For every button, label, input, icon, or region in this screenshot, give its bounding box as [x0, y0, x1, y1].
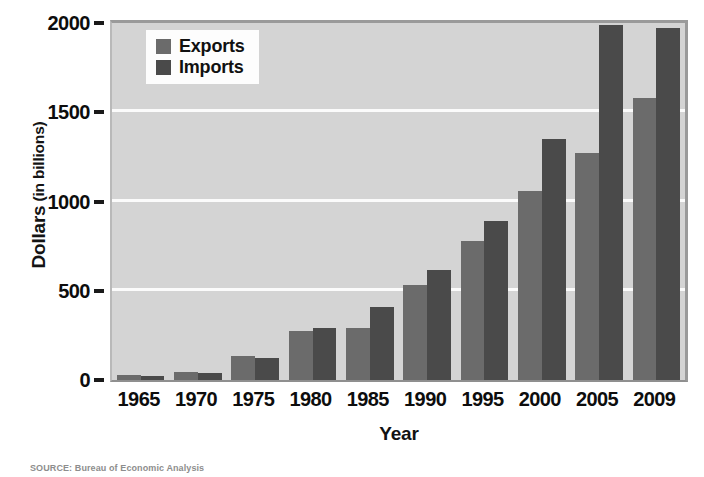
bar-group: [633, 23, 681, 380]
bar-imports-1965: [141, 376, 165, 380]
bar-chart-figure: Dollars(in billions) 0500100015002000 Ex…: [0, 0, 704, 477]
source-note: SOURCE: Bureau of Economic Analysis: [30, 463, 204, 477]
x-tick-label-1995: 1995: [454, 386, 511, 412]
bar-imports-1990: [427, 270, 451, 380]
x-tick-label-1975: 1975: [225, 386, 282, 412]
bar-exports-2009: [633, 98, 657, 380]
x-tick-label-1990: 1990: [397, 386, 454, 412]
y-tick-mark: [94, 21, 104, 25]
bar-group: [461, 23, 509, 380]
bar-imports-1970: [198, 373, 222, 380]
legend-item-exports: Exports: [156, 37, 245, 55]
x-axis-title: Year: [110, 423, 688, 445]
y-tick-mark: [94, 378, 104, 382]
y-tick: 500: [0, 279, 104, 303]
x-tick-label-1985: 1985: [339, 386, 396, 412]
bar-group: [518, 23, 566, 380]
legend-label-exports: Exports: [179, 37, 245, 55]
bar-group: [289, 23, 337, 380]
chart-legend: Exports Imports: [146, 30, 259, 84]
y-tick-label: 1500: [48, 100, 91, 124]
bar-exports-1975: [231, 356, 255, 380]
y-tick-label: 500: [58, 279, 90, 303]
x-axis-ticks: 1965197019751980198519901995200020052009: [110, 386, 688, 416]
plot-area: Exports Imports: [110, 20, 688, 382]
bar-exports-1970: [174, 372, 198, 380]
legend-swatch-imports-icon: [156, 60, 171, 75]
x-tick-label-2009: 2009: [626, 386, 683, 412]
y-tick: 0: [0, 368, 104, 392]
bar-group: [575, 23, 623, 380]
x-tick-label-2000: 2000: [511, 386, 568, 412]
bar-exports-1995: [461, 241, 485, 380]
bar-exports-1965: [117, 375, 141, 380]
y-tick: 1000: [0, 190, 104, 214]
bar-group: [403, 23, 451, 380]
bar-exports-2005: [575, 153, 599, 380]
x-tick-label-1965: 1965: [110, 386, 167, 412]
y-tick-mark: [94, 289, 104, 293]
legend-swatch-exports-icon: [156, 39, 171, 54]
y-tick-label: 1000: [48, 190, 91, 214]
legend-item-imports: Imports: [156, 58, 245, 76]
legend-label-imports: Imports: [179, 58, 244, 76]
bar-imports-1975: [255, 358, 279, 380]
bar-imports-2005: [599, 25, 623, 380]
bar-group: [346, 23, 394, 380]
bar-imports-2009: [656, 28, 680, 380]
x-tick-label-2005: 2005: [568, 386, 625, 412]
bar-imports-1985: [370, 307, 394, 380]
bar-exports-1990: [403, 285, 427, 380]
bar-exports-1980: [289, 331, 313, 380]
y-axis-ticks: 0500100015002000: [0, 0, 104, 477]
bar-exports-1985: [346, 328, 370, 380]
y-tick-mark: [94, 110, 104, 114]
bar-imports-1995: [484, 221, 508, 380]
bar-exports-2000: [518, 191, 542, 380]
y-tick-mark: [94, 200, 104, 204]
y-tick-label: 0: [79, 368, 90, 392]
y-tick-label: 2000: [48, 11, 91, 35]
y-tick: 2000: [0, 11, 104, 35]
bar-imports-1980: [313, 328, 337, 380]
y-tick: 1500: [0, 100, 104, 124]
x-tick-label-1980: 1980: [282, 386, 339, 412]
x-tick-label-1970: 1970: [167, 386, 224, 412]
bar-imports-2000: [542, 139, 566, 380]
